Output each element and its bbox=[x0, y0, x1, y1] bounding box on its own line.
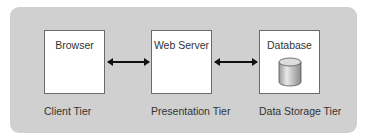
web-server-label: Web Server bbox=[152, 39, 211, 51]
web-server-box: Web Server bbox=[151, 30, 212, 94]
presentation-tier-label: Presentation Tier bbox=[151, 105, 230, 117]
database-cylinder-icon bbox=[278, 57, 302, 87]
browser-label: Browser bbox=[45, 39, 104, 51]
database-label: Database bbox=[260, 39, 319, 51]
client-tier-label: Client Tier bbox=[44, 105, 91, 117]
browser-webserver-arrow bbox=[108, 61, 149, 63]
data-storage-tier-label: Data Storage Tier bbox=[259, 105, 341, 117]
database-box: Database bbox=[259, 30, 320, 94]
webserver-database-arrow bbox=[215, 61, 257, 63]
browser-box: Browser bbox=[44, 30, 105, 94]
